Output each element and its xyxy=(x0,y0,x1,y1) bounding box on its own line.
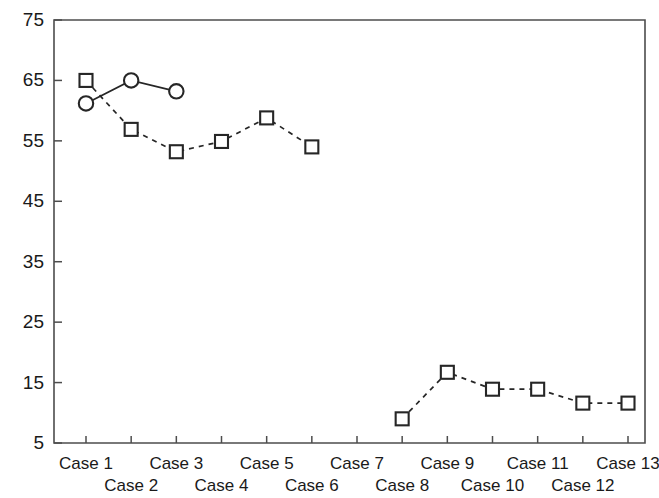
data-point-square xyxy=(622,397,635,410)
x-tick-label: Case 8 xyxy=(375,476,429,495)
x-tick-label: Case 4 xyxy=(195,476,249,495)
x-tick-label: Case 9 xyxy=(420,454,474,473)
x-tick-label: Case 3 xyxy=(149,454,203,473)
x-tick-label: Case 6 xyxy=(285,476,339,495)
y-tick-label: 15 xyxy=(23,372,44,393)
chart-figure: 515253545556575 Case 1Case 2Case 3Case 4… xyxy=(0,0,659,498)
data-point-square xyxy=(260,111,273,124)
data-point-square xyxy=(531,383,544,396)
chart-canvas: 515253545556575 Case 1Case 2Case 3Case 4… xyxy=(0,0,659,498)
data-point-square xyxy=(441,366,454,379)
y-tick-label: 25 xyxy=(23,311,44,332)
data-point-square xyxy=(215,135,228,148)
x-tick-label: Case 12 xyxy=(551,476,614,495)
y-tick-label: 5 xyxy=(33,432,44,453)
data-point-square xyxy=(396,412,409,425)
data-point-square xyxy=(125,123,138,136)
y-tick-label: 35 xyxy=(23,251,44,272)
y-tick-label: 75 xyxy=(23,9,44,30)
x-tick-label: Case 1 xyxy=(59,454,113,473)
x-tick-label: Case 11 xyxy=(507,454,569,473)
data-point-circle xyxy=(169,84,183,98)
data-point-square xyxy=(170,145,183,158)
x-tick-label: Case 2 xyxy=(104,476,158,495)
data-point-square xyxy=(486,383,499,396)
data-point-square xyxy=(305,140,318,153)
data-point-square xyxy=(80,74,93,87)
x-tick-label: Case 7 xyxy=(330,454,384,473)
x-tick-label: Case 13 xyxy=(596,454,659,473)
chart-background xyxy=(0,0,659,498)
y-tick-label: 55 xyxy=(23,130,44,151)
x-tick-label: Case 10 xyxy=(461,476,524,495)
data-point-circle xyxy=(79,96,93,110)
y-tick-label: 45 xyxy=(23,190,44,211)
x-tick-label: Case 5 xyxy=(240,454,294,473)
data-point-square xyxy=(576,397,589,410)
y-tick-label: 65 xyxy=(23,69,44,90)
data-point-circle xyxy=(124,73,138,87)
